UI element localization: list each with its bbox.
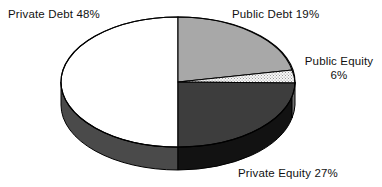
slice-label-public-equity-value: 6%	[331, 69, 348, 81]
slice-label-private-debt: Private Debt 48%	[8, 7, 100, 21]
pie-chart-graphic	[0, 0, 382, 187]
slice-label-public-debt: Public Debt 19%	[232, 7, 319, 21]
pie-chart: Private Debt 48% Public Debt 19% Public …	[0, 0, 382, 187]
slice-label-public-equity-name: Public Equity	[305, 55, 373, 67]
slice-label-public-equity: Public Equity6%	[300, 54, 378, 82]
slice-label-private-equity: Private Equity 27%	[238, 166, 338, 180]
